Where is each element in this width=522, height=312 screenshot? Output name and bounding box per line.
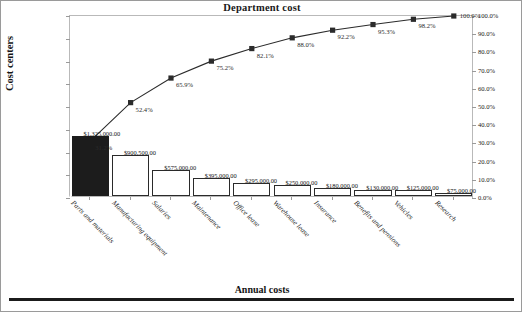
x-axis-category-label[interactable]: Office lease: [231, 199, 261, 229]
y-axis-tick-mark: [66, 84, 70, 85]
secondary-axis-tick-label: 100.0%: [478, 12, 522, 19]
bar-value-label: $900,500.00: [124, 149, 156, 156]
x-axis-category-labels: Parts and materialsManufacturing equipme…: [69, 199, 473, 287]
cumulative-percent-label: 75.2%: [216, 64, 233, 71]
bar-value-label: $575,000.00: [164, 164, 196, 171]
x-axis-tick-mark: [332, 197, 333, 200]
x-axis-tick-mark: [89, 197, 90, 200]
cumulative-marker[interactable]: [451, 13, 456, 18]
cumulative-percent-label: 95.3%: [378, 28, 395, 35]
x-axis-title: Annual costs: [1, 284, 522, 295]
cumulative-marker[interactable]: [168, 75, 173, 80]
x-axis-category-label[interactable]: Research: [433, 199, 457, 223]
bar[interactable]: [314, 188, 351, 196]
chart-title: Department cost: [1, 2, 522, 13]
secondary-axis-tick-label: 90.0%: [478, 30, 522, 37]
cumulative-percent-label: 92.2%: [338, 33, 355, 40]
secondary-axis-tick-label: 40.0%: [478, 121, 522, 128]
bar-value-label: $75,000.00: [447, 187, 476, 194]
cumulative-line: [90, 16, 454, 141]
y-axis-tick-mark: [66, 62, 70, 63]
bar[interactable]: [112, 155, 149, 196]
y-axis-tick-mark: [66, 16, 70, 17]
secondary-axis-tick-mark: [472, 52, 476, 53]
secondary-axis-tick-mark: [472, 180, 476, 181]
cumulative-percent-label: 98.2%: [418, 22, 435, 29]
y-axis-tick-mark: [66, 107, 70, 108]
x-axis-category-label[interactable]: Salaries: [150, 199, 172, 221]
bar[interactable]: [193, 178, 230, 196]
x-axis-tick-mark: [372, 197, 373, 200]
x-axis-tick-mark: [453, 197, 454, 200]
x-axis-tick-mark: [130, 197, 131, 200]
plot-area: $4,000,000.00$3,500,000.00$3,000,000.00$…: [69, 15, 473, 197]
cumulative-marker[interactable]: [370, 22, 375, 27]
bar[interactable]: [233, 183, 270, 196]
cumulative-percent-label: 82.1%: [257, 52, 274, 59]
cumulative-percent-label: 31.2%: [95, 144, 112, 151]
secondary-axis-tick-label: 70.0%: [478, 67, 522, 74]
cumulative-percent-label: 52.4%: [136, 106, 153, 113]
secondary-axis-tick-label: 10.0%: [478, 176, 522, 183]
bar-value-label: $295,000.00: [245, 177, 277, 184]
bar[interactable]: [152, 170, 189, 196]
secondary-axis-tick-mark: [472, 89, 476, 90]
secondary-axis-tick-mark: [472, 125, 476, 126]
y-axis-tick-mark: [66, 175, 70, 176]
secondary-axis-tick-mark: [472, 107, 476, 108]
x-axis-category-label[interactable]: Maintenance: [191, 199, 223, 231]
y-axis-title: Cost centers: [4, 4, 15, 124]
x-axis-tick-mark: [412, 197, 413, 200]
cumulative-marker[interactable]: [330, 28, 335, 33]
cumulative-marker[interactable]: [128, 100, 133, 105]
bar-value-label: $395,000.00: [205, 172, 237, 179]
x-axis-category-label[interactable]: Parts and materials: [70, 199, 116, 245]
secondary-axis-tick-label: 30.0%: [478, 139, 522, 146]
bar-value-label: $1,325,000.00: [84, 130, 121, 137]
y-axis-tick-mark: [66, 130, 70, 131]
cumulative-marker[interactable]: [411, 17, 416, 22]
x-axis-tick-mark: [291, 197, 292, 200]
bar-value-label: $130,000.00: [366, 184, 398, 191]
x-axis-tick-mark: [251, 197, 252, 200]
cumulative-percent-label: 88.0%: [297, 41, 314, 48]
secondary-axis-tick-label: 20.0%: [478, 158, 522, 165]
cumulative-marker[interactable]: [249, 46, 254, 51]
y-axis-tick-mark: [66, 153, 70, 154]
secondary-axis-tick-label: 50.0%: [478, 103, 522, 110]
cumulative-marker[interactable]: [290, 35, 295, 40]
x-axis-tick-mark: [210, 197, 211, 200]
x-axis-category-label[interactable]: Warehouse lease: [272, 199, 312, 239]
bar[interactable]: [274, 185, 311, 196]
bar-value-label: $180,000.00: [326, 182, 358, 189]
cumulative-marker[interactable]: [209, 59, 214, 64]
x-axis-tick-mark: [170, 197, 171, 200]
cumulative-percent-label: 65.9%: [176, 81, 193, 88]
secondary-axis-tick-label: 0.0%: [478, 194, 522, 201]
bar-value-label: $250,000.00: [286, 179, 318, 186]
secondary-axis-tick-mark: [472, 162, 476, 163]
bar-value-label: $125,000.00: [407, 184, 439, 191]
bottom-divider: [9, 298, 514, 301]
cumulative-percent-label: 100.0%: [460, 12, 480, 19]
chart-figure: Department cost $4,000,000.00$3,500,000.…: [0, 0, 522, 312]
secondary-axis-tick-mark: [472, 71, 476, 72]
secondary-axis-tick-mark: [472, 143, 476, 144]
y-axis-tick-mark: [66, 39, 70, 40]
secondary-axis-tick-label: 60.0%: [478, 85, 522, 92]
x-axis-category-label[interactable]: Vehicles: [393, 199, 415, 221]
secondary-axis-tick-label: 80.0%: [478, 48, 522, 55]
x-axis-category-label[interactable]: Insurance: [312, 199, 338, 225]
secondary-axis-tick-mark: [472, 34, 476, 35]
